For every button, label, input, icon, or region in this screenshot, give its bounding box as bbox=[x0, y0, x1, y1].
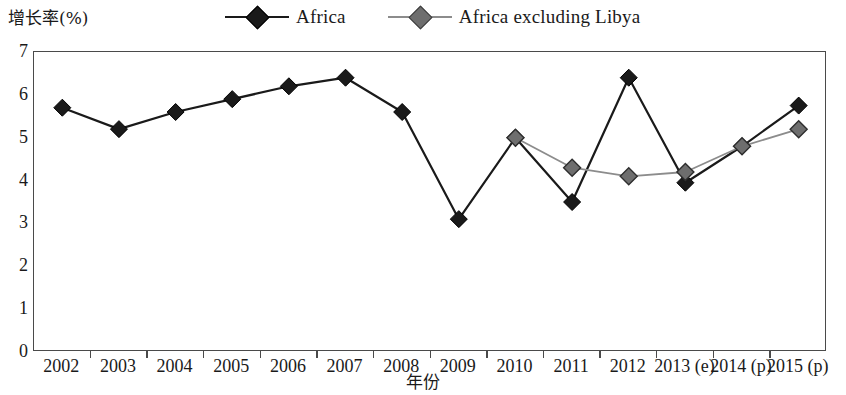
x-tick-mark bbox=[90, 351, 91, 358]
data-point-marker bbox=[167, 104, 184, 121]
x-tick-mark bbox=[146, 351, 147, 358]
data-point-marker bbox=[280, 78, 297, 95]
data-point-marker bbox=[734, 138, 751, 155]
legend-label: Africa excluding Libya bbox=[459, 6, 641, 28]
data-point-marker bbox=[620, 69, 637, 86]
legend-swatch bbox=[388, 9, 452, 25]
data-point-marker bbox=[337, 69, 354, 86]
y-tick-label: 2 bbox=[4, 256, 28, 274]
y-tick-label: 3 bbox=[4, 213, 28, 231]
data-point-marker bbox=[620, 168, 637, 185]
data-point-marker bbox=[790, 121, 807, 138]
x-tick-mark bbox=[543, 351, 544, 358]
legend-item-2: Africa excluding Libya bbox=[388, 6, 641, 28]
y-tick-label: 0 bbox=[4, 342, 28, 360]
x-tick-mark bbox=[316, 351, 317, 358]
legend-item-1: Africa bbox=[225, 6, 346, 28]
y-tick-label: 4 bbox=[4, 171, 28, 189]
legend-swatch bbox=[225, 9, 289, 25]
y-tick-label: 5 bbox=[4, 128, 28, 146]
diamond-marker-icon bbox=[408, 5, 432, 29]
y-tick-label: 6 bbox=[4, 85, 28, 103]
x-tick-mark bbox=[260, 351, 261, 358]
data-point-marker bbox=[54, 99, 71, 116]
legend-label: Africa bbox=[296, 6, 346, 28]
data-point-marker bbox=[790, 97, 807, 114]
chart-figure: 增长率(%) AfricaAfrica excluding Libya 7654… bbox=[0, 0, 846, 395]
x-tick-mark bbox=[430, 351, 431, 358]
data-point-marker bbox=[394, 104, 411, 121]
chart-legend: AfricaAfrica excluding Libya bbox=[225, 4, 640, 30]
x-tick-mark bbox=[203, 351, 204, 358]
data-point-marker bbox=[110, 121, 127, 138]
y-tick-label: 7 bbox=[4, 42, 28, 60]
x-tick-mark bbox=[599, 351, 600, 358]
y-tick-label: 1 bbox=[4, 299, 28, 317]
diamond-marker-icon bbox=[245, 5, 269, 29]
x-axis-title: 年份 bbox=[0, 368, 846, 393]
series-line-1 bbox=[62, 78, 798, 219]
data-point-marker bbox=[224, 91, 241, 108]
y-axis-ticks: 76543210 bbox=[0, 0, 28, 395]
x-tick-mark bbox=[486, 351, 487, 358]
plot-svg bbox=[34, 52, 827, 352]
x-tick-mark bbox=[373, 351, 374, 358]
plot-area bbox=[33, 51, 826, 351]
data-point-marker bbox=[564, 159, 581, 176]
data-point-marker bbox=[450, 211, 467, 228]
